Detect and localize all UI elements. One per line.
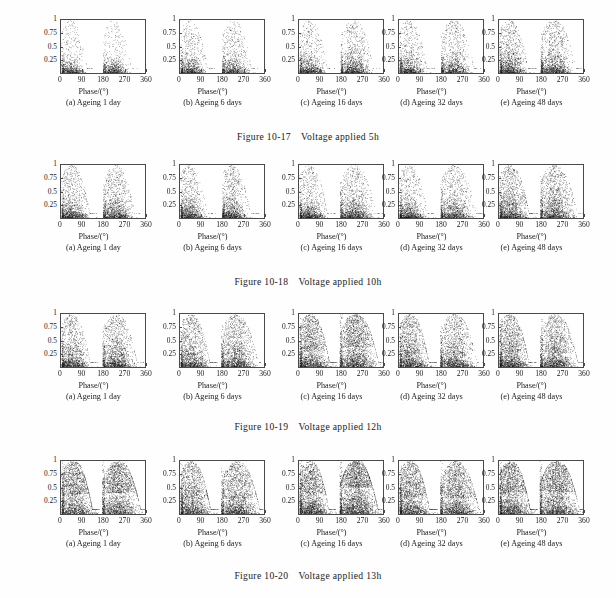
plot-axes-frame xyxy=(60,460,146,515)
figure-title: Voltage applied 10h xyxy=(298,276,381,287)
y-tick-mark xyxy=(60,341,63,342)
x-axis-title: Phase/(°) xyxy=(151,381,274,391)
x-tick-mark xyxy=(541,69,542,72)
y-tick-label: 0.5 xyxy=(48,188,57,196)
y-tick-mark xyxy=(60,47,63,48)
scatter-panel: 10.750.50.25090180270360Phase/(°)(b) Age… xyxy=(151,308,274,402)
y-tick-label: 0.25 xyxy=(482,350,495,358)
y-tick-label: 1 xyxy=(391,309,395,317)
y-tick-mark xyxy=(298,178,301,179)
y-tick-mark xyxy=(498,474,501,475)
y-tick-label: 0.75 xyxy=(282,174,295,182)
y-axis-tick-marks xyxy=(60,19,64,74)
x-tick-mark xyxy=(222,214,223,217)
x-tick-mark xyxy=(363,363,364,366)
x-tick-mark xyxy=(298,510,299,513)
scatter-panel: 10.750.50.25090180270360Phase/(°)(b) Age… xyxy=(151,159,274,253)
y-axis-tick-marks xyxy=(179,164,183,219)
x-tick-label: 270 xyxy=(357,220,368,229)
x-axis-tick-marks xyxy=(179,69,265,74)
subplot-row: 10.750.50.25090180270360Phase/(°)(a) Age… xyxy=(0,455,616,549)
y-tick-mark xyxy=(498,47,501,48)
y-tick-mark xyxy=(298,33,301,34)
x-tick-label: 0 xyxy=(496,516,500,525)
y-axis-tick-marks xyxy=(298,19,302,74)
y-tick-label: 0.75 xyxy=(282,29,295,37)
x-tick-mark xyxy=(563,69,564,72)
x-tick-mark xyxy=(441,69,442,72)
x-tick-label: 90 xyxy=(197,369,205,378)
x-tick-mark xyxy=(520,214,521,217)
x-tick-mark xyxy=(298,363,299,366)
y-tick-label: 0.25 xyxy=(44,350,57,358)
x-tick-mark xyxy=(584,510,585,513)
x-tick-mark xyxy=(244,510,245,513)
x-tick-label: 0 xyxy=(296,220,300,229)
x-tick-mark xyxy=(244,214,245,217)
x-tick-label: 270 xyxy=(238,220,249,229)
y-tick-label: 1 xyxy=(53,15,57,23)
y-tick-label: 0.25 xyxy=(282,350,295,358)
y-tick-label: 0.25 xyxy=(382,56,395,64)
x-tick-label: 180 xyxy=(216,516,227,525)
x-tick-mark xyxy=(103,363,104,366)
y-axis-tick-marks xyxy=(498,164,502,219)
y-tick-label: 0.5 xyxy=(486,337,495,345)
x-tick-label: 0 xyxy=(58,516,62,525)
x-axis-tick-labels: 090180270360 xyxy=(54,220,152,230)
y-tick-label: 1 xyxy=(391,456,395,464)
x-tick-label: 270 xyxy=(457,220,468,229)
y-axis-tick-labels: 10.750.50.25 xyxy=(151,460,177,515)
figure-number: Figure 10-19 xyxy=(234,421,288,432)
figure-caption: Figure 10-20Voltage applied 13h xyxy=(0,570,616,582)
y-axis-tick-labels: 10.750.50.25 xyxy=(370,460,396,515)
y-tick-label: 1 xyxy=(172,15,176,23)
x-tick-label: 90 xyxy=(316,516,324,525)
x-tick-mark xyxy=(60,510,61,513)
y-tick-label: 0.5 xyxy=(386,188,395,196)
x-tick-label: 270 xyxy=(119,75,130,84)
y-tick-mark xyxy=(179,192,182,193)
x-tick-mark xyxy=(60,214,61,217)
subplot-caption: (e) Ageing 48 days xyxy=(470,539,593,549)
x-axis-tick-marks xyxy=(179,214,265,219)
x-tick-mark xyxy=(82,214,83,217)
x-tick-label: 0 xyxy=(396,516,400,525)
y-axis-tick-labels: 10.750.50.25 xyxy=(470,460,496,515)
x-tick-label: 0 xyxy=(496,75,500,84)
y-tick-label: 1 xyxy=(391,15,395,23)
figure-caption: Figure 10-17Voltage applied 5h xyxy=(0,131,616,143)
y-tick-label: 0.25 xyxy=(44,201,57,209)
y-tick-label: 1 xyxy=(291,309,295,317)
y-tick-mark xyxy=(60,205,63,206)
x-tick-label: 360 xyxy=(140,369,151,378)
subplot-row: 10.750.50.25090180270360Phase/(°)(a) Age… xyxy=(0,14,616,108)
scatter-panel: 10.750.50.25090180270360Phase/(°)(b) Age… xyxy=(151,455,274,549)
y-axis-tick-marks xyxy=(60,313,64,368)
x-tick-label: 0 xyxy=(177,220,181,229)
x-axis-tick-labels: 090180270360 xyxy=(54,75,152,85)
y-axis-tick-marks xyxy=(498,19,502,74)
scatter-plot-canvas xyxy=(180,165,265,219)
y-tick-mark xyxy=(498,313,501,314)
x-axis-tick-labels: 090180270360 xyxy=(173,516,271,526)
scatter-plot-canvas xyxy=(499,165,584,219)
x-tick-label: 270 xyxy=(357,516,368,525)
x-tick-mark xyxy=(541,363,542,366)
x-tick-label: 90 xyxy=(416,220,424,229)
x-axis-tick-labels: 090180270360 xyxy=(492,220,590,230)
y-tick-mark xyxy=(298,327,301,328)
y-tick-mark xyxy=(298,192,301,193)
x-tick-label: 90 xyxy=(416,369,424,378)
subplot-caption: (e) Ageing 48 days xyxy=(470,98,593,108)
x-tick-mark xyxy=(146,363,147,366)
scatter-panel: 10.750.50.25090180270360Phase/(°)(e) Age… xyxy=(470,455,593,549)
x-tick-mark xyxy=(125,214,126,217)
y-tick-mark xyxy=(498,327,501,328)
x-tick-label: 270 xyxy=(557,75,568,84)
subplot-caption: (b) Ageing 6 days xyxy=(151,539,274,549)
x-tick-label: 0 xyxy=(396,369,400,378)
y-axis-tick-labels: 10.750.50.25 xyxy=(32,313,58,368)
y-tick-mark xyxy=(179,313,182,314)
y-tick-mark xyxy=(179,164,182,165)
